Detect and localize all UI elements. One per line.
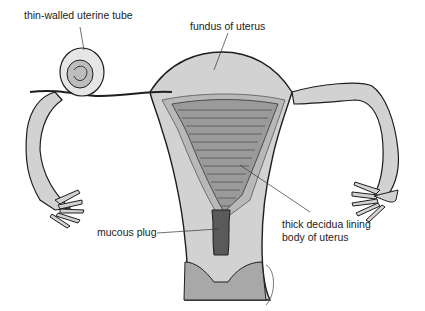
embryo [67, 60, 93, 88]
label-fundus: fundus of uterus [190, 20, 265, 33]
uterus-illustration [0, 0, 425, 311]
label-decidua-line1: thick decidua lining [282, 218, 371, 231]
label-uterine-tube: thin-walled uterine tube [24, 9, 133, 22]
label-decidua-line2: body of uterus [282, 231, 349, 244]
leader-uterine-tube [80, 27, 84, 50]
mucous-plug-shape [212, 210, 230, 255]
label-mucous-plug: mucous plug [97, 226, 157, 239]
right-uterine-tube [292, 83, 398, 196]
uterus-diagram: thin-walled uterine tube fundus of uteru… [0, 0, 425, 311]
left-uterine-tube [26, 92, 70, 210]
